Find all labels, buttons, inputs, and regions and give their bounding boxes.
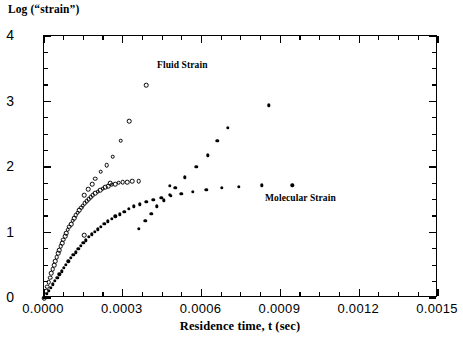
data-point-series-2 [64,263,67,266]
data-point-series-2 [220,186,223,189]
x-axis-tick-label: 0.0009 [244,301,314,316]
x-axis-tick [102,292,103,296]
y-axis-tick [44,199,48,200]
x-axis-tick [437,36,438,43]
data-point-series-2 [69,256,72,259]
data-point-series-1 [108,181,113,186]
data-point-series-1 [86,187,91,192]
y-axis-tick [432,68,436,69]
x-axis-tick-label: 0.0012 [323,301,393,316]
data-point-series-2 [226,126,229,129]
data-point-series-1 [98,169,103,174]
y-axis-tick [44,52,48,53]
x-axis-tick [299,292,300,296]
y-axis-tick [432,281,436,282]
y-axis-tick [44,68,48,69]
y-axis-tick-label: 2 [0,158,14,174]
x-axis-tick [437,289,438,296]
x-axis-tick [142,36,143,40]
data-point-series-2 [174,186,177,189]
x-axis-tick [398,36,399,40]
data-point-series-1 [52,263,57,268]
data-point-series-2 [45,292,48,295]
y-axis-tick [432,84,436,85]
data-point-series-2 [76,247,79,250]
data-point-series-2 [49,286,52,289]
x-axis-tick [299,36,300,40]
data-point-series-2 [103,222,106,225]
x-axis-tick [83,292,84,296]
data-point-series-2 [90,233,93,236]
data-point-series-1 [136,179,141,184]
y-axis-tick [44,101,51,102]
y-axis-tick [44,215,48,216]
data-point-series-2 [260,184,263,187]
y-axis-tick [44,117,48,118]
x-axis-tick [162,292,163,296]
x-axis-tick [63,292,64,296]
data-point-series-2 [216,139,219,142]
data-point-series-2 [99,225,102,228]
data-point-series-2 [122,210,125,213]
x-axis-tick [122,36,123,43]
x-axis-tick [339,36,340,40]
data-point-series-2 [267,104,270,107]
data-point-series-2 [132,205,135,208]
y-axis-tick-label: 3 [0,93,14,109]
data-point-series-1 [93,176,98,181]
data-point-series-2 [137,227,140,230]
x-axis-tick [280,36,281,43]
data-point-series-2 [205,188,208,191]
x-axis-tick-label: 0.0003 [87,301,157,316]
y-axis-tick-label: 4 [0,27,14,43]
data-point-series-1 [118,139,123,144]
y-axis-tick [44,150,48,151]
y-axis-tick [432,134,436,135]
data-point-series-1 [90,182,95,187]
data-point-series-2 [114,214,117,217]
x-axis-tick [201,36,202,43]
x-axis-tick [142,292,143,296]
data-point-series-2 [138,203,141,206]
x-axis-tick [221,36,222,40]
y-axis-tick [429,232,436,233]
x-axis-tick [359,36,360,43]
data-point-series-2 [58,273,61,276]
data-point-series-2 [87,235,90,238]
y-axis-tick-label: 1 [0,224,14,240]
figure-container: Log (“strain”) Residence time, t (sec) F… [0,0,463,340]
y-axis-tick [44,84,48,85]
data-point-series-1 [48,275,53,280]
x-axis-tick [260,292,261,296]
data-point-series-2 [71,253,74,256]
data-point-series-2 [191,190,194,193]
data-point-series-2 [149,212,152,215]
x-axis-tick [418,36,419,40]
y-axis-tick [44,265,48,266]
data-point-series-2 [162,199,165,202]
data-point-series-2 [143,219,146,222]
y-axis-tick [432,248,436,249]
data-point-series-1 [104,163,109,168]
data-point-series-2 [60,269,63,272]
data-point-series-2 [118,212,121,215]
x-axis-tick [102,36,103,40]
x-axis-tick [359,289,360,296]
y-axis-tick [429,35,436,36]
y-axis-title: Log (“strain”) [8,3,79,15]
data-point-series-2 [74,250,77,253]
y-axis-tick [429,101,436,102]
data-point-series-1 [57,248,62,253]
data-point-series-2 [106,220,109,223]
data-point-series-2 [93,230,96,233]
y-axis-tick [44,35,51,36]
x-axis-tick [181,36,182,40]
data-point-series-2 [84,239,87,242]
data-point-series-2 [127,207,130,210]
data-point-series-2 [183,176,186,179]
data-point-series-1 [82,193,87,198]
x-axis-tick [319,36,320,40]
x-axis-tick [162,36,163,40]
x-axis-tick [339,292,340,296]
data-point-series-1 [144,83,149,88]
